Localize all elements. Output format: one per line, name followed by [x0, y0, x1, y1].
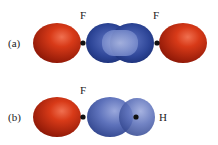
atom-label-h: H: [159, 112, 167, 123]
nucleus-f1: [80, 40, 85, 45]
panel-b-label: (b): [8, 112, 21, 123]
atom-label-f: F: [80, 85, 86, 96]
atom-label-f: F: [80, 10, 86, 21]
nucleus-h: [133, 114, 138, 119]
overlap-core: [102, 30, 138, 56]
nucleus-f: [80, 114, 85, 119]
panel-a: [33, 23, 207, 63]
f-lobe: [33, 97, 81, 137]
panel-a-label: (a): [8, 38, 20, 49]
atom-label-f: F: [153, 10, 159, 21]
nucleus-f2: [154, 40, 159, 45]
f-left-lobe: [33, 23, 81, 63]
f-right-lobe: [159, 23, 207, 63]
orbital-diagram: [0, 0, 218, 145]
panel-b: [33, 97, 155, 137]
